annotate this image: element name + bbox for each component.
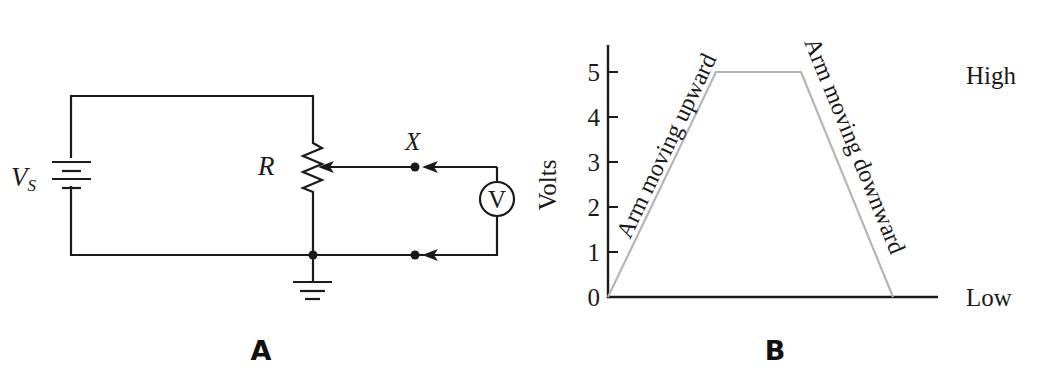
svg-text:2: 2 bbox=[588, 194, 601, 221]
top-wire bbox=[71, 96, 313, 158]
ground-icon bbox=[293, 255, 332, 299]
node-x-label: X bbox=[404, 128, 422, 155]
svg-text:3: 3 bbox=[588, 149, 601, 176]
battery-icon bbox=[52, 162, 91, 188]
svg-text:0: 0 bbox=[588, 284, 601, 311]
svg-text:1: 1 bbox=[588, 239, 601, 266]
voltage-graph: 0 1 2 3 4 5 Volts Arm moving upward Arm … bbox=[534, 34, 1017, 366]
svg-text:5: 5 bbox=[588, 59, 601, 86]
voltmeter-label: V bbox=[488, 186, 506, 213]
y-axis-label: Volts bbox=[534, 160, 561, 211]
resistor-label: R bbox=[257, 151, 275, 181]
figure-canvas: V VS R X A bbox=[0, 0, 1037, 375]
low-label: Low bbox=[966, 284, 1012, 311]
panel-b-label: B bbox=[765, 335, 786, 366]
rise-annotation: Arm moving upward bbox=[611, 49, 721, 242]
resistor-icon bbox=[303, 140, 322, 255]
circuit-diagram: V VS R X A bbox=[11, 96, 514, 366]
terminal-ground-dot bbox=[411, 251, 420, 260]
panel-a-label: A bbox=[251, 335, 272, 366]
svg-text:4: 4 bbox=[588, 104, 601, 131]
fall-annotation: Arm moving downward bbox=[799, 34, 910, 257]
source-label: VS bbox=[11, 162, 37, 195]
bottom-wire bbox=[71, 186, 497, 255]
y-tick-labels: 0 1 2 3 4 5 bbox=[588, 59, 601, 311]
high-label: High bbox=[966, 62, 1017, 89]
terminal-x-dot bbox=[411, 163, 420, 172]
